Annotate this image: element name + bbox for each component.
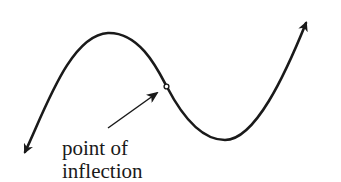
curve-graphic <box>0 0 341 182</box>
diagram-canvas: point of inflection <box>0 0 341 182</box>
inflection-label-line1: point of <box>62 138 128 159</box>
inflection-point-marker <box>164 84 169 89</box>
inflection-label-line2: inflection <box>62 161 142 182</box>
annotation-arrow <box>108 93 157 128</box>
